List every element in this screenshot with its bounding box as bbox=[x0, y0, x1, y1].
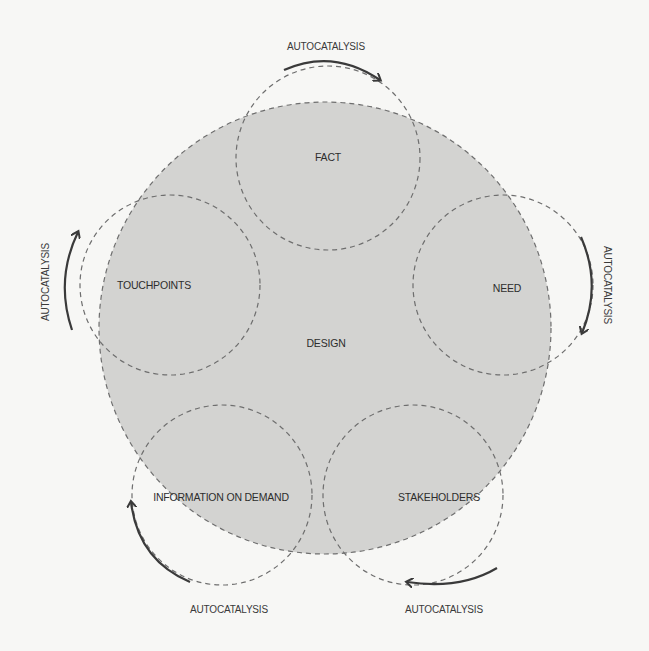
autocatalysis-label-left: AUTOCATALYSIS bbox=[40, 243, 51, 321]
node-label-stakeholders: STAKEHOLDERS bbox=[398, 491, 480, 503]
autocatalysis-arrow-right bbox=[581, 237, 592, 333]
center-label: DESIGN bbox=[306, 337, 345, 349]
node-label-information: INFORMATION ON DEMAND bbox=[153, 491, 289, 503]
node-label-touchpoints: TOUCHPOINTS bbox=[117, 279, 191, 291]
autocatalysis-diagram: DESIGN FACT NEED STAKEHOLDERS INFORMATIO… bbox=[0, 0, 649, 651]
design-circle bbox=[99, 102, 551, 554]
node-label-fact: FACT bbox=[315, 151, 342, 163]
autocatalysis-label-top: AUTOCATALYSIS bbox=[287, 41, 365, 52]
autocatalysis-arrow-left bbox=[65, 232, 78, 330]
autocatalysis-arrow-bottom-left bbox=[131, 502, 190, 582]
autocatalysis-label-bottom-right: AUTOCATALYSIS bbox=[405, 604, 483, 615]
autocatalysis-arrow-top bbox=[284, 61, 380, 80]
autocatalysis-label-bottom-left: AUTOCATALYSIS bbox=[190, 604, 268, 615]
autocatalysis-label-right: AUTOCATALYSIS bbox=[602, 246, 613, 324]
node-label-need: NEED bbox=[493, 282, 522, 294]
